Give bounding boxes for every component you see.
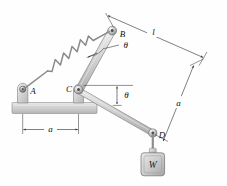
weight-label: W: [149, 160, 158, 170]
pivot-c-hole: [77, 88, 80, 91]
ground-bar: [12, 103, 97, 114]
pivot-b-hole: [111, 29, 114, 32]
spring-coils: [48, 36, 94, 72]
pivot-b: [108, 26, 117, 35]
spring-lead-lower: [26, 71, 48, 88]
point-b-label: B: [120, 29, 126, 39]
ground-base: [12, 103, 97, 114]
mechanism-diagram: a l a θ: [0, 0, 227, 186]
theta-upper-label: θ: [123, 40, 128, 50]
figure-canvas: a l a θ: [0, 0, 227, 186]
point-d-label: D: [158, 130, 166, 140]
point-a-label: A: [29, 86, 36, 96]
point-c-label: C: [66, 84, 73, 94]
pivot-c: [74, 85, 83, 94]
pivot-a-hole: [22, 88, 24, 90]
pivot-d-hole: [151, 132, 154, 135]
dim-l-ext-start: [106, 13, 114, 27]
dim-side-a: a: [155, 59, 204, 142]
dim-side-label: a: [176, 98, 181, 108]
theta-lower-label: θ: [124, 90, 129, 100]
dim-base-a: a: [23, 114, 79, 135]
dim-base-label: a: [48, 124, 53, 134]
dim-top-l: l: [106, 13, 207, 66]
dim-side-ext-top: [190, 59, 204, 66]
